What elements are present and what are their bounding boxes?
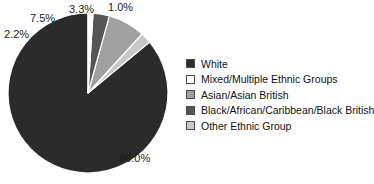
legend-item[interactable]: White xyxy=(186,57,370,70)
legend-item[interactable]: Asian/Asian British xyxy=(186,88,370,101)
legend-item[interactable]: Mixed/Multiple Ethnic Groups xyxy=(186,73,370,86)
legend-item-label: Black/African/Caribbean/Black British xyxy=(201,104,374,116)
slice-label-black: 3.3% xyxy=(69,3,94,15)
legend-item-label: Other Ethnic Group xyxy=(201,120,291,132)
slice-label-white: 86.0% xyxy=(119,152,150,164)
chart-legend: WhiteMixed/Multiple Ethnic GroupsAsian/A… xyxy=(186,57,370,135)
legend-swatch-icon xyxy=(186,75,195,84)
legend-item-label: White xyxy=(201,58,228,70)
pie-slices xyxy=(8,13,168,173)
legend-swatch-icon xyxy=(186,90,195,99)
slice-label-other-ethnic-group: 2.2% xyxy=(4,28,29,40)
legend-item-label: Asian/Asian British xyxy=(201,89,289,101)
pie-plot-area: 86.0% 2.2% 7.5% 3.3% 1.0% xyxy=(0,0,190,184)
legend-swatch-icon xyxy=(186,121,195,130)
legend-item[interactable]: Black/African/Caribbean/Black British xyxy=(186,104,370,117)
legend-swatch-icon xyxy=(186,59,195,68)
legend-swatch-icon xyxy=(186,106,195,115)
slice-label-mixed: 1.0% xyxy=(108,1,133,13)
slice-label-asian: 7.5% xyxy=(30,12,55,24)
legend-item-label: Mixed/Multiple Ethnic Groups xyxy=(201,73,338,85)
legend-item[interactable]: Other Ethnic Group xyxy=(186,119,370,132)
